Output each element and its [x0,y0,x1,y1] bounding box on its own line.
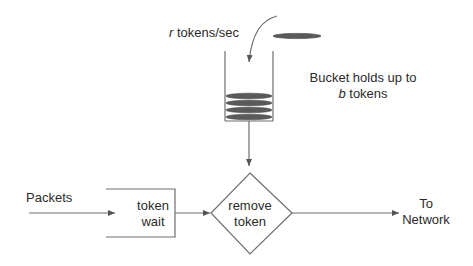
remove-token-line1: remove [222,198,278,214]
token-icon [226,93,272,99]
bucket-capacity-label: Bucket holds up to b tokens [305,70,421,102]
token-icon [226,114,272,120]
token-wait-line1: token [128,198,178,214]
packets-label: Packets [26,190,72,206]
bucket-label-line2: tokens [346,86,388,101]
remove-token-line2: token [222,214,278,230]
remove-token-label: remove token [222,198,278,230]
token-icon [226,107,272,113]
bucket-label-line1: Bucket holds up to [305,70,421,86]
bucket-variable: b [338,86,345,101]
to-network-line2: Network [398,212,454,228]
rate-label: r tokens/sec [169,25,239,41]
to-network-line1: To [398,196,454,212]
token-wait-label: token wait [128,198,178,230]
rate-text: tokens/sec [173,25,239,40]
token-icon [226,100,272,106]
to-network-label: To Network [398,196,454,228]
token-wait-line2: wait [128,214,178,230]
falling-token-icon [273,33,321,38]
